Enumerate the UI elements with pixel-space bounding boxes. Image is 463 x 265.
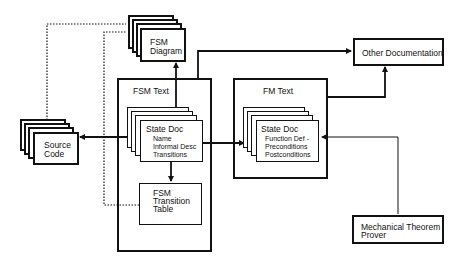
other-documentation-label: Other Documentation (362, 49, 443, 58)
fm-text-title: FM Text (263, 87, 293, 96)
fm-state-doc-item-postconditions: Postconditions (265, 151, 311, 160)
fm-state-doc-title: State Doc (261, 125, 298, 134)
fsm-transition-table-label-3: Table (153, 205, 173, 214)
theorem-prover-node[interactable]: Mechanical Theorem Prover (352, 215, 444, 244)
fsm-text-title: FSM Text (133, 87, 169, 96)
fm-state-doc-node[interactable]: State Doc Function Def - Preconditions P… (256, 120, 319, 162)
fsm-transition-table-node[interactable]: FSM Transition Table (139, 183, 202, 225)
fsm-state-doc-title: State Doc (146, 125, 183, 134)
source-code-label-2: Code (44, 150, 64, 159)
source-code-node[interactable]: Source Code (33, 132, 79, 165)
fsm-text-container[interactable]: FSM Text (117, 78, 212, 252)
edge-fsm-text-to-other-documentation (198, 51, 351, 78)
edge-fm-text-to-other-documentation (327, 67, 385, 97)
theorem-prover-label-2: Prover (361, 231, 386, 240)
fsm-state-doc-node[interactable]: State Doc Name Informal Desc Transitions (140, 120, 203, 162)
fsm-diagram-node[interactable]: FSM Diagram (140, 28, 186, 62)
fsm-state-doc-item-transitions: Transitions (153, 151, 187, 160)
other-documentation-node[interactable]: Other Documentation (353, 38, 444, 66)
edge-theorem-prover-to-fm-state-doc (322, 137, 398, 214)
edge-source-code-to-fsm-diagram (47, 24, 126, 120)
fsm-diagram-label-2: Diagram (150, 47, 182, 56)
